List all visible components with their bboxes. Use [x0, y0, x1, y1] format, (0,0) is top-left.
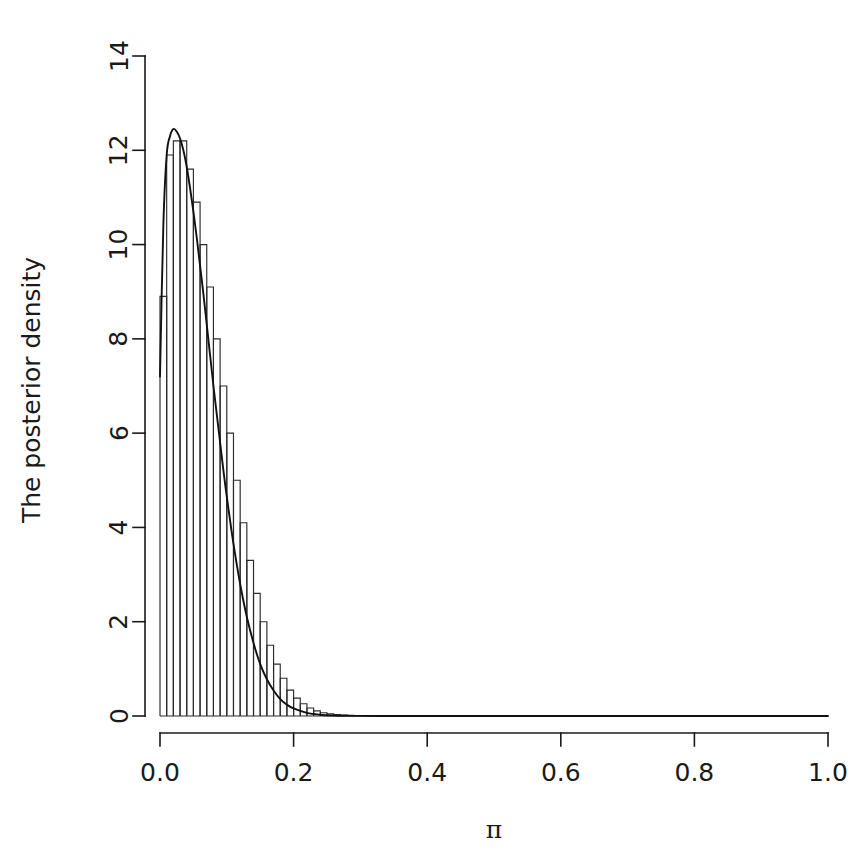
histogram-bar	[233, 480, 240, 716]
y-axis-tick-labels: 02468101214	[104, 40, 133, 724]
x-axis	[160, 733, 828, 746]
histogram-bar	[240, 523, 247, 716]
histogram-bar	[220, 386, 227, 716]
y-axis-tick-label: 0	[105, 708, 134, 724]
x-axis-tick-label: 0.0	[140, 758, 180, 787]
histogram-bar	[193, 202, 200, 716]
histogram-bar	[294, 698, 301, 716]
x-axis-tick-labels: 0.00.20.40.60.81.0	[140, 758, 848, 787]
histogram-bar	[227, 433, 234, 716]
y-axis-title: The posterior density	[17, 257, 46, 524]
histogram-bar	[300, 704, 307, 716]
x-axis-ticks	[160, 733, 828, 746]
plot-canvas: 02468101214 0.00.20.40.60.81.0 The poste…	[0, 0, 850, 861]
posterior-density-plot: 02468101214 0.00.20.40.60.81.0 The poste…	[0, 0, 850, 861]
histogram-bar	[187, 169, 194, 716]
y-axis-tick-label: 14	[105, 40, 134, 72]
x-axis-tick-label: 0.8	[675, 758, 715, 787]
x-axis-tick-label: 0.6	[541, 758, 581, 787]
histogram-bar	[274, 664, 281, 716]
x-axis-tick-label: 0.4	[407, 758, 447, 787]
histogram-bar	[180, 141, 187, 716]
histogram-bar	[167, 155, 174, 716]
y-axis-tick-label: 12	[104, 134, 133, 166]
y-axis-ticks	[133, 56, 145, 716]
y-axis-tick-label: 6	[105, 425, 134, 441]
histogram-bar	[280, 678, 287, 716]
y-axis	[133, 56, 145, 716]
x-axis-tick-label: 1.0	[808, 758, 848, 787]
y-axis-tick-label: 10	[105, 229, 134, 261]
histogram-bar	[173, 141, 180, 716]
y-axis-tick-label: 2	[105, 614, 134, 630]
x-axis-title: π	[486, 815, 502, 844]
y-axis-tick-label: 4	[104, 519, 133, 535]
x-axis-tick-label: 0.2	[274, 758, 314, 787]
y-axis-tick-label: 8	[104, 331, 133, 347]
histogram-bar	[287, 690, 294, 716]
